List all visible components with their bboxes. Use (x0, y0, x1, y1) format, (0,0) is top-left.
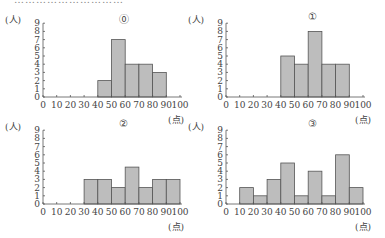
histogram-bar (308, 171, 322, 204)
histogram-3: 01234567890102030405060708090100 (人) ③ (… (183, 120, 373, 232)
y-tick-label: 9 (217, 18, 223, 28)
histogram-plot: 01234567890102030405060708090100 (0, 13, 200, 125)
histogram-bar (153, 179, 167, 204)
x-tick-label: 20 (248, 207, 260, 217)
x-tick-label: 30 (261, 100, 273, 110)
y-axis-unit: (人) (188, 120, 204, 133)
x-tick-label: 80 (147, 207, 159, 217)
x-tick-label: 30 (78, 207, 90, 217)
histogram-bar (98, 81, 112, 97)
histogram-bar (166, 179, 180, 204)
histogram-bar (281, 56, 295, 97)
y-axis-unit: (人) (188, 13, 204, 26)
x-tick-label: 0 (223, 207, 229, 217)
histogram-bar (98, 179, 112, 204)
x-tick-label: 60 (119, 207, 131, 217)
histogram-plot: 01234567890102030405060708090100 (0, 120, 200, 232)
histogram-bar (295, 64, 309, 97)
histogram-bar (336, 155, 350, 204)
histogram-bar (125, 167, 139, 204)
x-tick-label: 40 (92, 207, 104, 217)
x-tick-label: 30 (261, 207, 273, 217)
x-tick-label: 10 (234, 100, 246, 110)
x-tick-label: 20 (65, 100, 77, 110)
x-tick-label: 60 (119, 100, 131, 110)
histogram-bar (112, 40, 126, 97)
x-tick-label: 80 (147, 100, 159, 110)
histogram-bar (240, 188, 254, 204)
histogram-plot: 01234567890102030405060708090100 (183, 13, 383, 125)
histogram-bar (322, 196, 336, 204)
x-tick-label: 100 (354, 100, 371, 110)
chart-title: ① (308, 11, 317, 22)
x-tick-label: 20 (65, 207, 77, 217)
x-tick-label: 100 (354, 207, 371, 217)
histogram-bar (349, 188, 363, 204)
x-tick-label: 40 (275, 207, 287, 217)
histogram-plot: 01234567890102030405060708090100 (183, 120, 383, 232)
y-axis-unit: (人) (5, 120, 21, 133)
x-tick-label: 10 (234, 207, 246, 217)
x-axis-unit: (点) (355, 220, 371, 233)
x-tick-label: 0 (40, 207, 46, 217)
histogram-bar (253, 196, 267, 204)
x-tick-label: 80 (330, 207, 342, 217)
y-axis-unit: (人) (5, 13, 21, 26)
x-tick-label: 30 (78, 100, 90, 110)
x-tick-label: 0 (223, 100, 229, 110)
histogram-bar (84, 179, 98, 204)
x-tick-label: 10 (51, 100, 63, 110)
histogram-2: 01234567890102030405060708090100 (人) ② (… (0, 120, 190, 232)
y-tick-label: 9 (34, 125, 40, 135)
x-tick-label: 80 (330, 100, 342, 110)
x-tick-label: 50 (289, 100, 301, 110)
truncated-question-text: ………………………… (14, 0, 314, 4)
x-tick-label: 20 (248, 100, 260, 110)
histogram-bar (281, 163, 295, 204)
histogram-bar (139, 188, 153, 204)
histogram-1: 01234567890102030405060708090100 (人) ① (… (183, 13, 373, 125)
x-tick-label: 70 (316, 207, 328, 217)
x-tick-label: 50 (289, 207, 301, 217)
histogram-bar (336, 64, 350, 97)
x-tick-label: 50 (106, 100, 118, 110)
histogram-0: 01234567890102030405060708090100 (人) ⓪ (… (0, 13, 190, 125)
x-tick-label: 50 (106, 207, 118, 217)
chart-title: ⓪ (119, 11, 129, 26)
x-tick-label: 60 (302, 207, 314, 217)
chart-title: ③ (308, 118, 317, 129)
histogram-bar (139, 64, 153, 97)
histogram-bar (295, 196, 309, 204)
histogram-bar (153, 72, 167, 97)
y-tick-label: 9 (34, 18, 40, 28)
x-tick-label: 70 (133, 207, 145, 217)
histogram-bar (322, 64, 336, 97)
x-tick-label: 40 (275, 100, 287, 110)
histogram-bar (267, 179, 281, 204)
x-tick-label: 70 (133, 100, 145, 110)
x-tick-label: 70 (316, 100, 328, 110)
x-axis-unit: (点) (168, 220, 184, 233)
chart-title: ② (119, 118, 128, 129)
y-tick-label: 9 (217, 125, 223, 135)
x-tick-label: 10 (51, 207, 63, 217)
histogram-bar (308, 31, 322, 97)
x-tick-label: 0 (40, 100, 46, 110)
histogram-bar (112, 188, 126, 204)
x-tick-label: 60 (302, 100, 314, 110)
histogram-bar (125, 64, 139, 97)
x-tick-label: 40 (92, 100, 104, 110)
